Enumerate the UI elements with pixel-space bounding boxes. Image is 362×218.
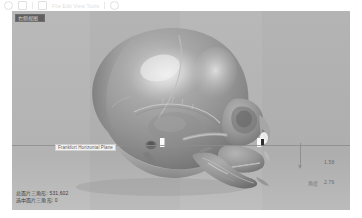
reference-plane-label[interactable]: Frankfort Horizontal Plane (55, 144, 116, 151)
mesh-statistics-overlay: 总面片三角形: 531,602 选中面片三角形: 0 (16, 190, 68, 203)
help-icon[interactable] (110, 1, 119, 10)
viewport-3d[interactable]: 右侧视图 Frankfort Horizontal Plane 1.58 角度 … (12, 11, 350, 210)
select-tool-icon[interactable] (38, 1, 47, 10)
view-orientation-label: 右侧视图 (18, 15, 38, 21)
back-icon[interactable] (4, 1, 13, 10)
toolbar-divider (32, 2, 33, 9)
measurement-value-1: 1.58 (324, 159, 335, 165)
measurement-label-2: 角度 (308, 180, 318, 186)
toolbar-divider-2 (104, 2, 105, 9)
measurement-arrow-icon (298, 165, 302, 169)
stat-selected-triangles: 选中面片三角形: 0 (16, 197, 68, 203)
stat-total-triangles: 总面片三角形: 531,602 (16, 190, 68, 196)
view-orientation-badge: 右侧视图 (15, 14, 45, 22)
reference-plane-label-text: Frankfort Horizontal Plane (58, 145, 113, 150)
measurement-annotations[interactable]: 1.58 角度 2.76 (290, 139, 348, 195)
app-toolbar-strip: File Edit View Tools (0, 0, 362, 9)
toolbar-hint-label: File Edit View Tools (52, 3, 99, 9)
measurement-value-2: 2.76 (324, 179, 335, 185)
open-file-icon[interactable] (18, 1, 27, 10)
